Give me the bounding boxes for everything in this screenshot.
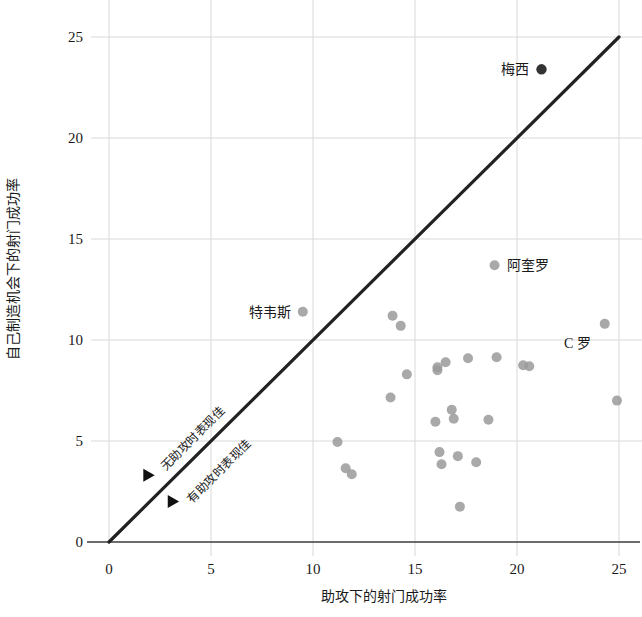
data-point[interactable]	[483, 415, 493, 425]
y-tick-label: 20	[68, 130, 83, 146]
x-tick-label: 10	[306, 561, 321, 577]
data-point[interactable]	[388, 311, 398, 321]
y-tick-label: 10	[68, 332, 83, 348]
triangle-right-icon	[143, 469, 154, 482]
data-point[interactable]	[492, 352, 502, 362]
data-point-labeled[interactable]	[536, 64, 546, 74]
x-axis-title: 助攻下的射门成功率	[321, 588, 447, 604]
data-point[interactable]	[332, 437, 342, 447]
x-tick-label: 25	[612, 561, 627, 577]
data-point-label: C 罗	[564, 336, 591, 351]
data-point-label: 特韦斯	[249, 305, 291, 320]
data-point[interactable]	[434, 447, 444, 457]
region-annotation-label: 有助攻时表现佳	[185, 436, 254, 505]
data-point[interactable]	[386, 393, 396, 403]
data-point[interactable]	[463, 353, 473, 363]
data-point[interactable]	[449, 414, 459, 424]
data-point[interactable]	[453, 451, 463, 461]
data-point[interactable]	[347, 469, 357, 479]
y-tick-label: 5	[76, 433, 84, 449]
y-tick-label: 25	[68, 29, 83, 45]
x-tick-label: 5	[207, 561, 215, 577]
x-tick-label: 20	[510, 561, 525, 577]
y-axis-title: 自己制造机会下的射门成功率	[5, 178, 21, 360]
data-point[interactable]	[471, 457, 481, 467]
data-point[interactable]	[432, 365, 442, 375]
y-tick-label: 15	[68, 231, 83, 247]
data-point[interactable]	[612, 396, 622, 406]
data-point-labeled[interactable]	[600, 319, 610, 329]
x-tick-label: 15	[408, 561, 423, 577]
data-point[interactable]	[402, 369, 412, 379]
data-point[interactable]	[447, 405, 457, 415]
reference-line-identity	[109, 37, 619, 542]
data-point[interactable]	[430, 417, 440, 427]
data-point[interactable]	[396, 321, 406, 331]
x-tick-label: 0	[105, 561, 113, 577]
data-point-labeled[interactable]	[490, 260, 500, 270]
chart-canvas: 05101520250510152025助攻下的射门成功率自己制造机会下的射门成…	[0, 0, 642, 617]
data-point[interactable]	[441, 357, 451, 367]
data-point-labeled[interactable]	[298, 307, 308, 317]
data-point-label: 梅西	[501, 62, 529, 77]
triangle-right-icon	[168, 495, 179, 508]
data-point[interactable]	[455, 502, 465, 512]
data-point-label: 阿奎罗	[507, 258, 549, 273]
scatter-chart: 05101520250510152025助攻下的射门成功率自己制造机会下的射门成…	[0, 0, 642, 617]
y-tick-label: 0	[76, 534, 84, 550]
data-point[interactable]	[524, 361, 534, 371]
data-point[interactable]	[437, 459, 447, 469]
